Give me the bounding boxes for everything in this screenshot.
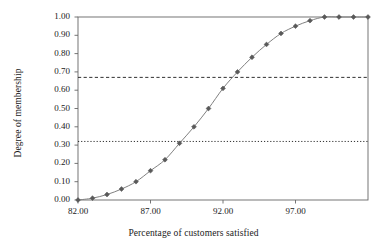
data-point-marker: [119, 187, 124, 192]
data-point-marker: [105, 192, 110, 197]
axis-frame: [78, 17, 368, 200]
y-tick-label: 0.70: [36, 66, 70, 76]
membership-curve: [78, 17, 368, 200]
plot-frame: [78, 17, 368, 200]
data-point-marker: [293, 24, 298, 29]
data-point-marker: [351, 15, 356, 20]
x-axis-title: Percentage of customers satisfied: [0, 228, 387, 238]
y-tick-label: 0.40: [36, 121, 70, 131]
tick-marks: [75, 17, 296, 204]
x-tick-label: 82.00: [56, 206, 100, 216]
y-tick-label: 0.20: [36, 157, 70, 167]
data-point-marker: [76, 198, 81, 203]
data-point-marker: [366, 15, 371, 20]
y-axis-title: Degree of membership: [13, 43, 23, 183]
y-tick-label: 0.60: [36, 84, 70, 94]
y-tick-label: 0.00: [36, 194, 70, 204]
y-tick-label: 0.80: [36, 48, 70, 58]
x-tick-label: 92.00: [201, 206, 245, 216]
data-point-markers: [76, 15, 371, 203]
data-series-line: [78, 17, 368, 200]
y-tick-label: 0.10: [36, 176, 70, 186]
y-tick-label: 0.50: [36, 103, 70, 113]
y-tick-label: 1.00: [36, 11, 70, 21]
data-point-marker: [322, 15, 327, 20]
y-tick-label: 0.90: [36, 29, 70, 39]
data-point-marker: [337, 15, 342, 20]
y-tick-label: 0.30: [36, 139, 70, 149]
x-tick-label: 97.00: [274, 206, 318, 216]
membership-function-chart: Percentage of customers satisfied Degree…: [0, 0, 387, 248]
x-tick-label: 87.00: [129, 206, 173, 216]
data-point-marker: [308, 18, 313, 23]
